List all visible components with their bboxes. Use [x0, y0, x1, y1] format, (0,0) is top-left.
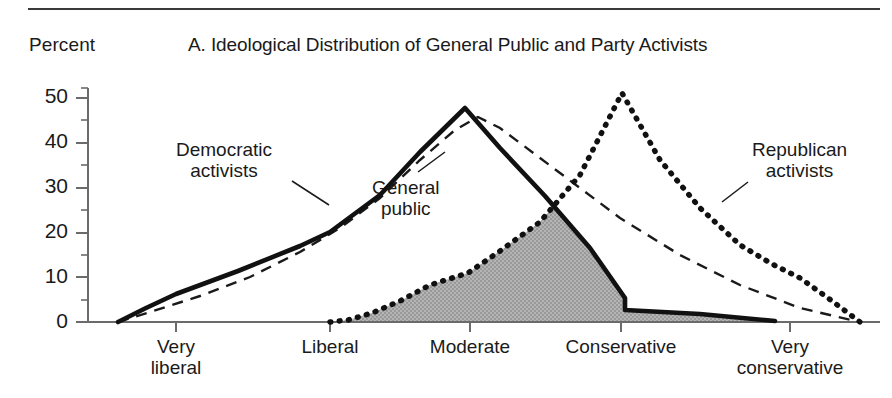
y-axis-minor-ticks	[81, 88, 88, 300]
leader-line-republican	[722, 182, 748, 202]
leader-line-democratic	[292, 181, 329, 205]
x-axis-ticks	[176, 322, 790, 332]
shaded-overlap-area	[330, 93, 860, 322]
plot-area	[0, 0, 892, 398]
figure-container: Percent A. Ideological Distribution of G…	[0, 0, 892, 398]
leader-line-general-public	[418, 152, 445, 172]
